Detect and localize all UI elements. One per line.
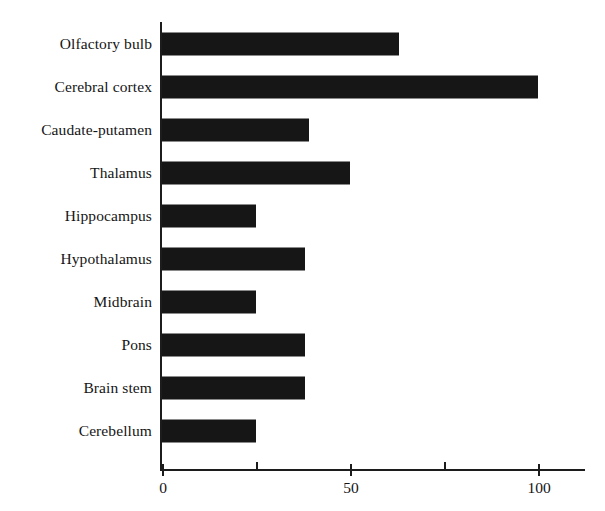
x-axis-line xyxy=(160,469,585,471)
bar-olfactory-bulb xyxy=(162,32,399,55)
chart-row: Thalamus xyxy=(0,151,605,194)
category-label: Caudate-putamen xyxy=(41,121,152,139)
bar-chart-figure: Olfactory bulb Cerebral cortex Caudate-p… xyxy=(0,0,605,511)
category-label: Olfactory bulb xyxy=(60,35,152,53)
bar-track xyxy=(162,32,399,55)
chart-row: Midbrain xyxy=(0,280,605,323)
category-label: Midbrain xyxy=(94,293,153,311)
category-label: Pons xyxy=(121,336,152,354)
chart-row: Hypothalamus xyxy=(0,237,605,280)
bar-track xyxy=(162,419,256,442)
bar-track xyxy=(162,118,309,141)
x-axis-minor-tick xyxy=(444,462,446,470)
chart-row: Cerebellum xyxy=(0,409,605,452)
bar-caudate-putamen xyxy=(162,118,309,141)
chart-row: Caudate-putamen xyxy=(0,108,605,151)
bar-thalamus xyxy=(162,161,350,184)
bar-pons xyxy=(162,333,305,356)
bar-hypothalamus xyxy=(162,247,305,270)
x-axis-minor-tick xyxy=(256,462,258,470)
category-label: Brain stem xyxy=(83,379,152,397)
chart-row: Olfactory bulb xyxy=(0,22,605,65)
category-label: Cerebral cortex xyxy=(55,78,152,96)
chart-row: Hippocampus xyxy=(0,194,605,237)
bar-brain-stem xyxy=(162,376,305,399)
bar-midbrain xyxy=(162,290,256,313)
chart-row: Pons xyxy=(0,323,605,366)
bar-track xyxy=(162,204,256,227)
x-axis-tick-label: 100 xyxy=(527,479,550,497)
chart-row: Brain stem xyxy=(0,366,605,409)
bar-track xyxy=(162,247,305,270)
bar-hippocampus xyxy=(162,204,256,227)
bar-track xyxy=(162,290,256,313)
bar-track xyxy=(162,376,305,399)
x-axis-tick-label: 50 xyxy=(343,479,359,497)
bar-track xyxy=(162,75,538,98)
bar-track xyxy=(162,333,305,356)
x-axis-major-tick xyxy=(350,464,352,476)
category-label: Thalamus xyxy=(90,164,152,182)
bar-track xyxy=(162,161,350,184)
category-label: Hippocampus xyxy=(65,207,152,225)
chart-row: Cerebral cortex xyxy=(0,65,605,108)
bar-cerebral-cortex xyxy=(162,75,538,98)
bar-cerebellum xyxy=(162,419,256,442)
x-axis-major-tick xyxy=(538,464,540,476)
x-axis-major-tick xyxy=(162,464,164,476)
x-axis-tick-label: 0 xyxy=(159,479,167,497)
category-label: Hypothalamus xyxy=(60,250,152,268)
category-label: Cerebellum xyxy=(79,422,152,440)
